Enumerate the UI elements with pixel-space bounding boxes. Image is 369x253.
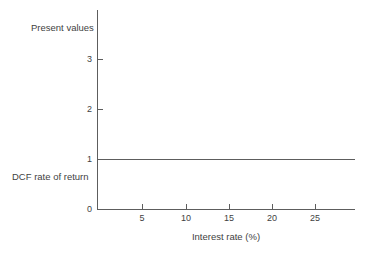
- y-tick-3: [98, 59, 103, 60]
- present-values-annotation: Present values: [31, 22, 94, 33]
- dcf-rate-of-return-annotation: DCF rate of return: [12, 171, 89, 182]
- y-ticklabel-2: 2: [78, 104, 92, 114]
- x-tick-15: [229, 204, 230, 209]
- x-ticklabel-25: 25: [304, 213, 326, 223]
- x-ticklabel-10: 10: [175, 213, 197, 223]
- series-line-present-values: [98, 159, 355, 160]
- y-ticklabel-0: 0: [78, 204, 92, 214]
- x-tick-5: [142, 204, 143, 209]
- y-tick-2: [98, 109, 103, 110]
- chart-figure: Present values DCF rate of return 3 2 1 …: [0, 0, 369, 253]
- x-tick-20: [272, 204, 273, 209]
- y-axis-line: [97, 10, 98, 210]
- x-ticklabel-5: 5: [131, 213, 153, 223]
- y-ticklabel-3: 3: [78, 54, 92, 64]
- x-ticklabel-15: 15: [218, 213, 240, 223]
- x-ticklabel-20: 20: [261, 213, 283, 223]
- x-axis-title: Interest rate (%): [97, 231, 355, 242]
- x-axis-line: [97, 209, 355, 210]
- x-tick-10: [186, 204, 187, 209]
- y-ticklabel-1: 1: [78, 154, 92, 164]
- y-tick-0: [98, 209, 103, 210]
- x-tick-25: [315, 204, 316, 209]
